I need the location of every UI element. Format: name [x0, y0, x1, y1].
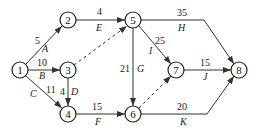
node-label: 1 [17, 64, 23, 76]
edge-label-activity-a: A [41, 43, 49, 54]
edge-label-activity-c: C [30, 88, 37, 99]
node-1: 1 [12, 62, 28, 78]
edge-label-activity-g: G [137, 63, 144, 74]
node-label: 2 [65, 14, 71, 26]
node-2: 2 [60, 12, 76, 28]
edge-label-activity-d: D [70, 86, 79, 97]
node-label: 7 [173, 64, 179, 76]
edge-label-activity-k: K [179, 116, 188, 127]
node-3: 3 [60, 62, 76, 78]
edge-label-duration-g: 21 [120, 63, 130, 74]
node-5: 5 [125, 12, 141, 28]
edge-label-duration-h: 35 [177, 7, 187, 18]
edge-label-activity-i: I [148, 45, 153, 56]
node-8: 8 [231, 62, 247, 78]
edge-label-activity-e: E [95, 22, 102, 33]
node-label: 4 [65, 108, 71, 120]
edge-label-duration-d: 4 [60, 86, 65, 97]
node-label: 5 [130, 14, 136, 26]
node-label: 8 [236, 64, 242, 76]
edge-label-activity-h: H [177, 22, 186, 33]
node-7: 7 [168, 62, 184, 78]
node-label: 6 [130, 108, 136, 120]
edge-label-activity-b: B [39, 70, 45, 81]
edge-6-8 [141, 76, 234, 114]
edge-label-duration-c: 11 [46, 84, 56, 95]
edge-label-duration-i: 25 [155, 35, 165, 46]
edge-label-duration-k: 20 [177, 101, 187, 112]
edge-label-duration-f: 15 [92, 101, 102, 112]
node-label: 3 [65, 64, 71, 76]
node-6: 6 [125, 106, 141, 122]
edge-label-duration-a: 5 [35, 35, 40, 46]
edge-6-7-dummy [139, 76, 171, 108]
edge-label-activity-j: J [203, 71, 208, 82]
node-4: 4 [60, 106, 76, 122]
network-diagram: 5 A 10 B 11 C 4 D 4 E 15 F 21 G 35 H 25 … [0, 0, 257, 137]
edge-label-duration-e: 4 [97, 6, 102, 17]
edge-label-duration-j: 15 [200, 57, 210, 68]
edge-label-activity-f: F [94, 116, 102, 127]
edge-label-duration-b: 10 [37, 57, 47, 68]
